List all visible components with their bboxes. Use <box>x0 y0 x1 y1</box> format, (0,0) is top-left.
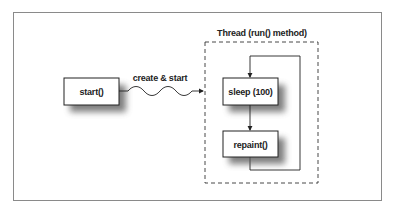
thread-group-label: Thread (run() method) <box>217 28 307 38</box>
repaint-box: repaint() <box>223 131 285 164</box>
create-start-edge: create & start <box>119 73 203 96</box>
sleep-box-label: sleep (100) <box>228 87 273 97</box>
edge-label: create & start <box>133 73 188 83</box>
thread-diagram: start() create & start Thread (run() met… <box>0 0 398 211</box>
repaint-box-label: repaint() <box>233 140 267 150</box>
sleep-box: sleep (100) <box>223 78 285 112</box>
start-box-label: start() <box>79 87 103 97</box>
start-box: start() <box>64 78 126 112</box>
wavy-arrow <box>119 87 203 96</box>
